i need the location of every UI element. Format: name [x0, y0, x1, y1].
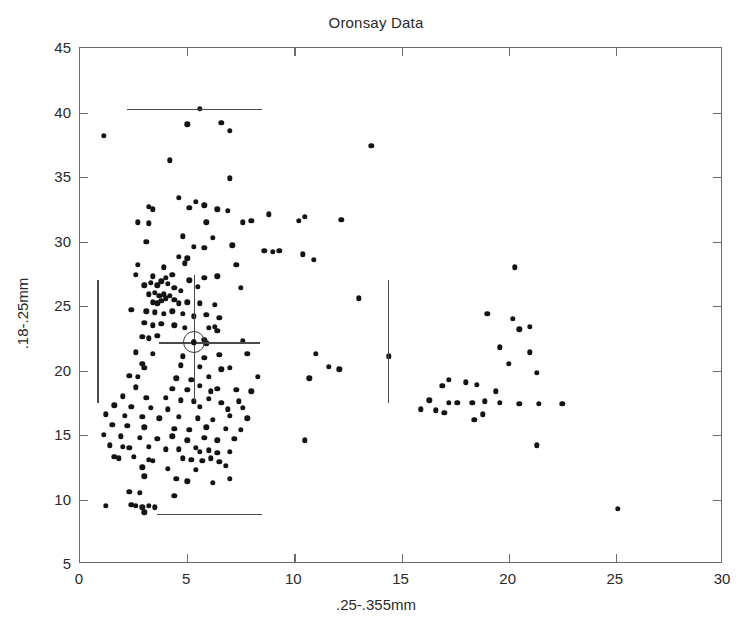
scatter-point — [176, 254, 181, 259]
y-axis-tick — [80, 371, 88, 372]
scatter-point — [517, 327, 522, 332]
x-tick-label: 30 — [714, 570, 731, 587]
y-tick-label: 45 — [54, 39, 71, 56]
scatter-point — [163, 395, 168, 400]
scatter-point — [204, 312, 209, 317]
scatter-point — [302, 214, 307, 219]
scatter-point — [270, 249, 275, 254]
x-axis-tick — [294, 48, 295, 56]
scatter-point — [154, 436, 159, 441]
y-axis-tick — [80, 177, 88, 178]
scatter-point — [120, 444, 125, 449]
y-tick-label: 5 — [63, 555, 71, 572]
scatter-point — [150, 323, 155, 328]
scatter-point — [176, 446, 181, 451]
scatter-point — [172, 493, 177, 498]
scatter-point — [133, 350, 138, 355]
scatter-point — [615, 506, 620, 511]
scatter-point — [232, 436, 237, 441]
plot-area — [79, 47, 722, 563]
scatter-point — [195, 416, 200, 421]
scatter-point — [152, 505, 157, 510]
x-tick-label: 10 — [285, 570, 302, 587]
scatter-point — [240, 338, 245, 343]
scatter-point — [210, 417, 215, 422]
scatter-point — [463, 379, 468, 384]
scatter-point — [120, 394, 125, 399]
scatter-point — [133, 272, 138, 277]
scatter-point — [506, 361, 511, 366]
scatter-point — [369, 143, 374, 148]
scatter-point — [189, 457, 194, 462]
scatter-point — [536, 401, 541, 406]
scatter-point — [184, 299, 189, 304]
scatter-point — [142, 474, 147, 479]
scatter-point — [202, 245, 207, 250]
y-tick-label: 40 — [54, 103, 71, 120]
scatter-point — [131, 454, 136, 459]
scatter-point — [560, 401, 565, 406]
scatter-point — [234, 387, 239, 392]
y-axis-tick — [80, 500, 88, 501]
scatter-point — [146, 221, 151, 226]
scatter-point — [440, 383, 445, 388]
scatter-point — [446, 400, 451, 405]
scatter-point — [180, 354, 185, 359]
scatter-point — [277, 248, 282, 253]
scatter-point — [174, 376, 179, 381]
scatter-point — [148, 405, 153, 410]
scatter-point — [169, 434, 174, 439]
scatter-point — [204, 219, 209, 224]
y-axis-tick — [80, 242, 88, 243]
scatter-point — [142, 365, 147, 370]
scatter-point — [161, 311, 166, 316]
scatter-point — [217, 315, 222, 320]
scatter-point — [238, 285, 243, 290]
scatter-point — [167, 158, 172, 163]
scatter-point — [157, 416, 162, 421]
scatter-point — [493, 388, 498, 393]
scatter-point — [139, 414, 144, 419]
scatter-point — [150, 274, 155, 279]
scatter-points-layer — [80, 48, 723, 564]
y-tick-label: 35 — [54, 168, 71, 185]
scatter-point — [510, 316, 515, 321]
y-tick-label: 15 — [54, 426, 71, 443]
y-axis-tick — [713, 435, 721, 436]
scatter-point — [197, 106, 202, 111]
scatter-point — [219, 367, 224, 372]
scatter-point — [223, 463, 228, 468]
scatter-point — [307, 376, 312, 381]
scatter-point — [129, 307, 134, 312]
scatter-point — [472, 417, 477, 422]
scatter-point — [180, 311, 185, 316]
scatter-point — [227, 476, 232, 481]
x-axis-title: .25-.355mm — [0, 596, 752, 613]
scatter-point — [249, 388, 254, 393]
scatter-point — [144, 239, 149, 244]
scatter-point — [206, 374, 211, 379]
scatter-point — [206, 325, 211, 330]
scatter-point — [142, 283, 147, 288]
scatter-point — [197, 364, 202, 369]
scatter-point — [418, 406, 423, 411]
scatter-point — [262, 248, 267, 253]
scatter-point — [214, 328, 219, 333]
scatter-point — [169, 308, 174, 313]
scatter-point — [534, 370, 539, 375]
scatter-point — [187, 427, 192, 432]
scatter-point — [240, 405, 245, 410]
scatter-point — [195, 284, 200, 289]
x-axis-tick — [616, 48, 617, 56]
scatter-point — [214, 450, 219, 455]
scatter-point — [169, 386, 174, 391]
x-axis-tick — [294, 554, 295, 562]
scatter-point — [296, 218, 301, 223]
scatter-point — [124, 423, 129, 428]
scatter-point — [161, 265, 166, 270]
scatter-point — [150, 351, 155, 356]
scatter-point — [135, 374, 140, 379]
y-axis-tick — [713, 500, 721, 501]
x-axis-tick — [187, 48, 188, 56]
scatter-point — [217, 352, 222, 357]
